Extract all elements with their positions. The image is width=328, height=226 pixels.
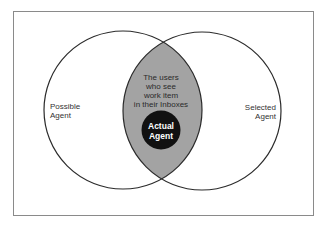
intersection-label-line2: who see [145, 82, 176, 91]
possible-agent-label-line2: Agent [50, 111, 72, 120]
intersection-label-line3: work item [143, 91, 179, 100]
venn-diagram: Possible Agent Selected Agent The users … [0, 0, 328, 226]
selected-agent-label-line2: Agent [255, 112, 277, 121]
intersection-label-line1: The users [143, 73, 179, 82]
selected-agent-label-line1: Selected [245, 103, 276, 112]
actual-agent-label-line1: Actual [148, 121, 174, 131]
actual-agent-label-line2: Agent [149, 131, 173, 141]
intersection-label-line4: in their Inboxes [134, 100, 188, 109]
possible-agent-label-line1: Possible [50, 102, 81, 111]
